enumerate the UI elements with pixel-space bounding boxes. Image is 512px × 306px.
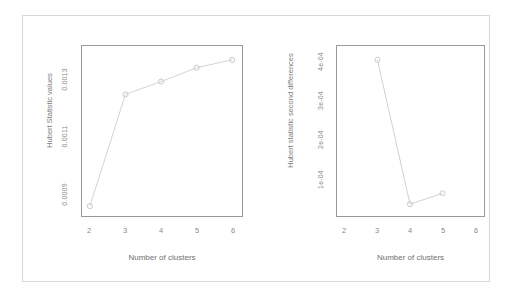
right-y-axis-title: Hubert statistic second differences (286, 41, 295, 181)
left-series-svg (82, 46, 242, 216)
figure-root: Hubert Statistic values 0.0009 0.0011 0.… (0, 0, 512, 306)
left-x-tick-1: 3 (117, 226, 133, 235)
left-x-tick-2: 4 (153, 226, 169, 235)
left-x-tick-4: 6 (225, 226, 241, 235)
right-x-tick-1: 3 (369, 226, 385, 235)
right-x-tick-4: 6 (468, 226, 484, 235)
right-data-line (377, 60, 442, 204)
right-y-tick-1: 2e-04 (317, 126, 324, 154)
right-plot-area (336, 45, 485, 217)
page-frame: Hubert Statistic values 0.0009 0.0011 0.… (22, 15, 490, 282)
left-y-tick-0: 0.0009 (61, 181, 68, 209)
right-x-axis-title: Number of clusters (336, 253, 485, 262)
right-y-tick-3: 4e-04 (317, 48, 324, 76)
left-y-axis-title: Hubert Statistic values (45, 56, 54, 166)
right-series-svg (337, 46, 484, 216)
right-x-tick-2: 4 (402, 226, 418, 235)
left-x-tick-3: 5 (189, 226, 205, 235)
left-y-tick-2: 0.0013 (61, 66, 68, 94)
left-x-axis-title: Number of clusters (81, 253, 243, 262)
right-y-tick-0: 1e-04 (317, 166, 324, 194)
left-y-tick-1: 0.0011 (61, 123, 68, 151)
right-y-tick-2: 3e-04 (317, 87, 324, 115)
right-x-tick-0: 2 (336, 226, 352, 235)
right-x-tick-3: 5 (435, 226, 451, 235)
chart-panel-left: Hubert Statistic values 0.0009 0.0011 0.… (23, 16, 263, 283)
left-plot-area (81, 45, 243, 217)
left-x-tick-0: 2 (81, 226, 97, 235)
chart-panel-right: Hubert statistic second differences 1e-0… (263, 16, 491, 283)
left-data-line (90, 60, 232, 206)
